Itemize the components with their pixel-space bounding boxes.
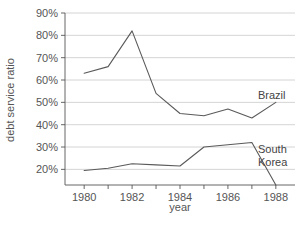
debt-service-ratio-line-chart: 90%80%70%60%50%40%30%20% 198019821984198… — [0, 0, 307, 228]
series-inline-labels: BrazilSouthKorea — [258, 89, 288, 168]
y-tick-label-70: 70% — [36, 52, 58, 64]
y-axis-title: debt service ratio — [4, 58, 16, 142]
x-axis-title: year — [169, 201, 191, 213]
y-tick-label-90: 90% — [36, 7, 58, 19]
y-axis-tick-labels: 90%80%70%60%50%40%30%20% — [36, 7, 58, 175]
x-tick-label-1982: 1982 — [120, 191, 144, 203]
y-tick-label-30: 30% — [36, 141, 58, 153]
series-line-south-korea — [84, 143, 276, 185]
series-label-south-korea: South — [258, 143, 287, 155]
series-label-brazil: Brazil — [258, 89, 286, 101]
y-tick-label-80: 80% — [36, 29, 58, 41]
y-tick-label-20: 20% — [36, 163, 58, 175]
x-tick-label-1986: 1986 — [216, 191, 240, 203]
tick-marks — [61, 13, 276, 189]
y-tick-label-60: 60% — [36, 74, 58, 86]
y-tick-label-40: 40% — [36, 119, 58, 131]
series-line-brazil — [84, 31, 276, 118]
chart-container: 90%80%70%60%50%40%30%20% 198019821984198… — [0, 0, 307, 228]
x-tick-label-1980: 1980 — [72, 191, 96, 203]
data-series-lines — [84, 31, 276, 185]
x-tick-label-1988: 1988 — [264, 191, 288, 203]
y-tick-label-50: 50% — [36, 96, 58, 108]
series-label-south-korea: Korea — [258, 156, 288, 168]
